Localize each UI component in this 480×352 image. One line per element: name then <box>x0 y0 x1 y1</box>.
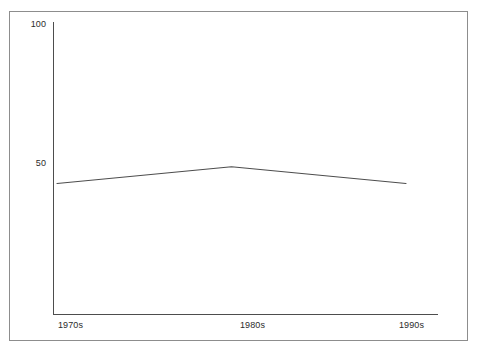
x-axis-tick-label-1970s: 1970s <box>58 320 83 330</box>
plot-area <box>0 0 480 352</box>
x-axis-tick-label-1990s: 1990s <box>399 320 424 330</box>
x-axis-tick-label-1980s: 1980s <box>240 320 265 330</box>
y-axis-tick-label-50: 50 <box>22 158 46 168</box>
data-line-series-0 <box>57 167 406 184</box>
chart-figure: 100 50 1970s 1980s 1990s <box>0 0 480 352</box>
y-axis-tick-label-100: 100 <box>22 19 46 29</box>
